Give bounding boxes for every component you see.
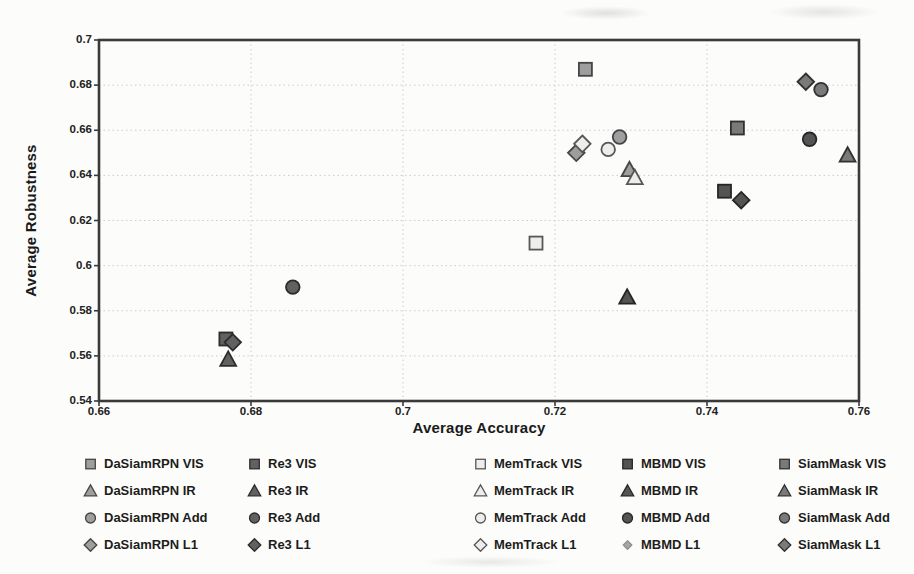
legend-label: SiamMask Add <box>798 510 890 525</box>
diamond-glyph <box>623 540 632 549</box>
legend-label: MemTrack VIS <box>494 456 582 471</box>
diamond-marker-icon <box>83 537 98 552</box>
scatter-figure: Average Robustness Average Accuracy 0.66… <box>0 0 914 574</box>
legend-label: MBMD L1 <box>641 537 700 552</box>
marker-dasiamrpn-add <box>613 130 627 144</box>
marker-re3-add <box>286 280 300 294</box>
circle-marker-icon <box>620 510 635 525</box>
legend-label: Re3 IR <box>268 483 308 498</box>
square-marker-icon <box>473 456 488 471</box>
y-tick-label: 0.54 <box>4 394 92 406</box>
legend-item-siammask-ir: SiamMask IR <box>777 482 878 498</box>
triangle-glyph <box>84 484 96 495</box>
legend-label: MBMD Add <box>641 510 710 525</box>
legend-label: SiamMask VIS <box>798 456 886 471</box>
legend-item-siammask-add: SiamMask Add <box>777 509 890 525</box>
triangle-glyph <box>621 484 633 495</box>
legend-item-re3-add: Re3 Add <box>247 509 320 525</box>
triangle-marker-icon <box>247 483 262 498</box>
square-glyph <box>623 459 633 469</box>
y-tick-label: 0.7 <box>4 33 92 45</box>
square-glyph <box>250 459 259 469</box>
legend-label: Re3 Add <box>268 510 320 525</box>
y-tick-label: 0.56 <box>4 349 92 361</box>
triangle-glyph <box>248 484 260 495</box>
triangle-marker-icon <box>777 483 792 498</box>
marker-siammask-l1 <box>798 74 815 91</box>
x-tick-label: 0.68 <box>229 405 273 417</box>
legend-item-mbmd-vis: MBMD VIS <box>620 455 706 471</box>
legend-label: Re3 L1 <box>268 537 311 552</box>
diamond-marker-icon <box>473 537 488 552</box>
diamond-glyph <box>84 538 97 551</box>
circle-glyph <box>86 513 96 523</box>
triangle-marker-icon <box>83 483 98 498</box>
x-axis-title: Average Accuracy <box>99 419 859 436</box>
diamond-glyph <box>248 538 261 551</box>
triangle-glyph <box>474 484 486 495</box>
legend-item-mbmd-ir: MBMD IR <box>620 482 698 498</box>
legend-label: DaSiamRPN Add <box>104 510 208 525</box>
triangle-glyph <box>778 484 790 495</box>
legend-label: MBMD IR <box>641 483 698 498</box>
y-tick-label: 0.64 <box>4 168 92 180</box>
x-tick-label: 0.72 <box>533 405 577 417</box>
legend-item-dasiamrpn-ir: DaSiamRPN IR <box>83 482 196 498</box>
circle-marker-icon <box>777 510 792 525</box>
y-tick-label: 0.62 <box>4 214 92 226</box>
circle-glyph <box>780 513 790 523</box>
marker-memtrack-add <box>601 143 615 157</box>
diamond-glyph <box>474 538 487 551</box>
marker-mbmd-add <box>803 133 817 147</box>
legend-item-dasiamrpn-l1: DaSiamRPN L1 <box>83 536 198 552</box>
circle-glyph <box>623 513 633 523</box>
circle-marker-icon <box>247 510 262 525</box>
diamond-glyph <box>778 538 791 551</box>
marker-siammask-vis <box>731 122 744 135</box>
circle-marker-icon <box>83 510 98 525</box>
square-marker-icon <box>620 456 635 471</box>
y-tick-label: 0.66 <box>4 123 92 135</box>
legend-item-siammask-vis: SiamMask VIS <box>777 455 886 471</box>
legend-item-mbmd-add: MBMD Add <box>620 509 710 525</box>
legend-item-mbmd-l1: MBMD L1 <box>620 536 700 552</box>
marker-dasiamrpn-vis <box>579 63 592 76</box>
legend-item-re3-vis: Re3 VIS <box>247 455 316 471</box>
legend-label: MBMD VIS <box>641 456 706 471</box>
circle-glyph <box>250 513 260 523</box>
legend-item-memtrack-l1: MemTrack L1 <box>473 536 576 552</box>
y-tick-label: 0.58 <box>4 304 92 316</box>
legend-item-memtrack-vis: MemTrack VIS <box>473 455 582 471</box>
marker-siammask-ir <box>840 147 856 161</box>
legend-label: DaSiamRPN L1 <box>104 537 198 552</box>
legend-item-dasiamrpn-add: DaSiamRPN Add <box>83 509 208 525</box>
legend-label: MemTrack Add <box>494 510 586 525</box>
diamond-marker-icon <box>777 537 792 552</box>
triangle-marker-icon <box>620 483 635 498</box>
y-tick-label: 0.6 <box>4 259 92 271</box>
marker-memtrack-vis <box>530 237 543 250</box>
x-tick-label: 0.74 <box>685 405 729 417</box>
marker-mbmd-l1 <box>733 192 750 209</box>
square-marker-icon <box>247 456 262 471</box>
circle-glyph <box>476 513 486 523</box>
square-glyph <box>476 459 486 469</box>
x-tick-label: 0.7 <box>381 405 425 417</box>
x-tick-label: 0.66 <box>77 405 121 417</box>
legend-label: Re3 VIS <box>268 456 316 471</box>
legend-item-memtrack-add: MemTrack Add <box>473 509 586 525</box>
x-tick-label: 0.76 <box>837 405 881 417</box>
legend-item-re3-l1: Re3 L1 <box>247 536 311 552</box>
legend-label: SiamMask L1 <box>798 537 880 552</box>
legend-label: DaSiamRPN IR <box>104 483 196 498</box>
circle-marker-icon <box>473 510 488 525</box>
legend-label: SiamMask IR <box>798 483 878 498</box>
legend-item-dasiamrpn-vis: DaSiamRPN VIS <box>83 455 204 471</box>
square-marker-icon <box>83 456 98 471</box>
legend-label: MemTrack L1 <box>494 537 576 552</box>
marker-mbmd-ir <box>619 289 635 303</box>
marker-mbmd-vis <box>718 185 731 198</box>
legend-item-re3-ir: Re3 IR <box>247 482 308 498</box>
legend-label: MemTrack IR <box>494 483 574 498</box>
legend-label: DaSiamRPN VIS <box>104 456 204 471</box>
